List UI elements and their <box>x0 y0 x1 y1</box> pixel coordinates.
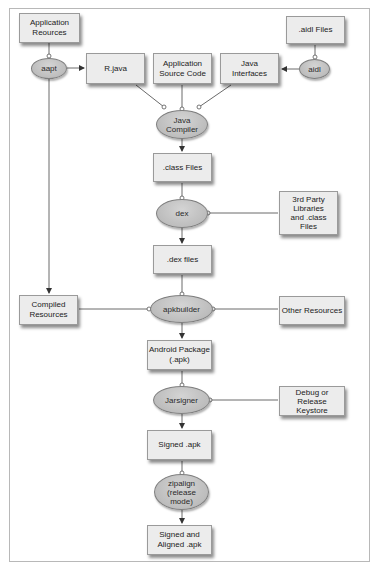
tool-aapt: aapt <box>31 58 67 79</box>
tool-java-compiler: Java Compiler <box>156 110 208 139</box>
node-third-party-libraries: 3rd Party Libraries and .class Files <box>279 191 338 235</box>
node-debug-release-keystore: Debug or Release Keystore <box>279 386 345 416</box>
tool-apkbuilder: apkbuilder <box>150 295 213 323</box>
node-aidl-files: .aidl Files <box>286 16 345 44</box>
node-dex-files: .dex files <box>153 245 212 274</box>
tool-dex: dex <box>156 199 208 228</box>
node-application-source-code: Application Source Code <box>153 53 212 84</box>
tool-zipalign: zipalign (release mode) <box>154 474 209 510</box>
node-android-package: Android Package (.apk) <box>147 340 212 370</box>
tool-aidl: aidl <box>299 59 330 79</box>
node-r-java: R.java <box>86 53 145 84</box>
node-other-resources: Other Resources <box>279 296 345 325</box>
node-class-files: .class Files <box>153 153 212 182</box>
node-compiled-resources: Compiled Resources <box>19 295 78 325</box>
node-application-resources: Application Reources <box>19 13 80 43</box>
node-signed-apk: Signed .apk <box>147 430 212 460</box>
tool-jarsigner: Jarsigner <box>153 386 210 414</box>
node-signed-aligned-apk: Signed and Aligned .apk <box>147 525 212 555</box>
node-java-interfaces: Java Interfaces <box>220 53 279 84</box>
